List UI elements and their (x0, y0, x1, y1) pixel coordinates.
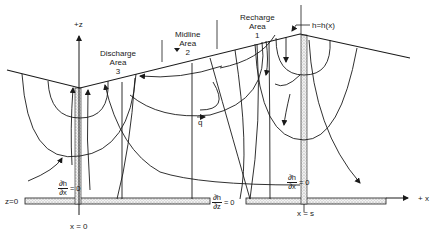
area-label-midline: Midline Area 2 (175, 30, 200, 57)
area-label-discharge: Discharge Area 3 (100, 49, 136, 76)
flux-vector-label: q (198, 118, 202, 127)
bc-left: ∂h∂x = 0 (58, 180, 81, 197)
x-end-label: x = s (297, 209, 314, 218)
x-axis-label: + x (418, 194, 429, 203)
z-origin-label: z=0 (5, 197, 18, 206)
water-table-label: h=h(x) (312, 21, 335, 30)
x-origin-label: x = 0 (70, 222, 88, 231)
area-label-recharge: Recharge Area 1 (240, 13, 275, 40)
z-axis-label: +z (74, 20, 83, 29)
bc-bottom: ∂h∂z = 0 (212, 194, 235, 211)
bc-right: ∂h∂x = 0 (287, 174, 310, 191)
